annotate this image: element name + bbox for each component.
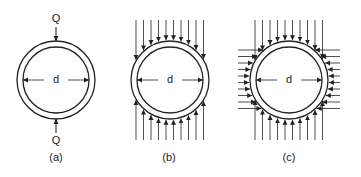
panel-a-diameter-label: d bbox=[51, 74, 61, 85]
panel-c-caption: (c) bbox=[283, 151, 296, 163]
panel-b-diameter-label: d bbox=[165, 74, 175, 85]
panel-b-caption: (b) bbox=[162, 151, 175, 163]
panel-a-load-label-bottom: Q bbox=[52, 134, 61, 146]
panel-a-load-label-top: Q bbox=[52, 12, 61, 24]
panel-c-diameter-label: d bbox=[284, 74, 294, 85]
panel-a-caption: (a) bbox=[49, 151, 62, 163]
